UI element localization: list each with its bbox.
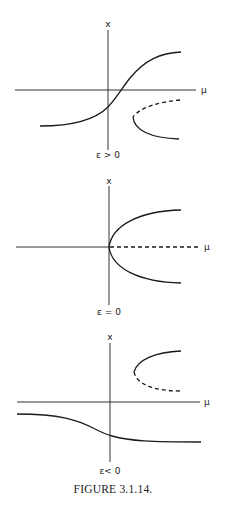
stable-upper-fold-branch [134,351,181,372]
condition-label: ε > 0 [96,150,120,160]
stable-sigmoid-branch [40,52,181,126]
panel-eps-positive: x μ ε > 0 [15,19,207,160]
condition-label: ε< 0 [100,466,121,476]
figure-caption: FIGURE 3.1.14. [74,483,153,495]
imperfect-pitchfork-figure: x μ ε > 0 x μ ε = 0 x μ ε< 0 FIGURE 3.1.… [0,0,227,511]
stable-pitchfork-lower-branch [109,247,181,283]
panel-eps-zero: x μ ε = 0 [16,176,210,317]
unstable-lower-fold-branch [134,372,181,391]
stable-sigmoid-decreasing-branch [17,414,201,442]
mu-axis-label: μ [204,242,210,252]
panel-eps-negative: x μ ε< 0 [17,332,210,476]
condition-label: ε = 0 [97,307,121,317]
unstable-upper-fold-branch [133,100,180,117]
x-axis-label: x [107,332,113,342]
mu-axis-label: μ [204,397,210,407]
stable-pitchfork-upper-branch [109,210,181,247]
x-axis-label: x [105,19,111,29]
x-axis-label: x [106,176,112,186]
mu-axis-label: μ [201,85,207,95]
stable-lower-fold-branch [133,117,179,139]
